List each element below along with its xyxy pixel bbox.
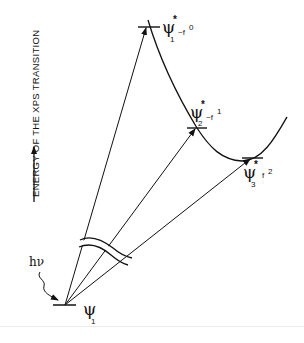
initial-psi: ψ bbox=[83, 299, 96, 319]
initial-psi-subscript: 1 bbox=[91, 317, 96, 326]
transition-arrow-3 bbox=[65, 159, 250, 305]
final-2-power: 1 bbox=[217, 107, 222, 116]
photon-label: hν bbox=[29, 255, 58, 300]
scale-break-mark bbox=[78, 238, 134, 265]
initial-state-label: ψ 1 bbox=[83, 299, 96, 326]
energy-axis: ENERGY OF THE XPS TRANSITION bbox=[30, 30, 41, 202]
final-2-star: * bbox=[201, 99, 205, 110]
transition-arrow-2 bbox=[65, 129, 195, 305]
xps-energy-diagram: ENERGY OF THE XPS TRANSITION hν ψ 1 ψ * … bbox=[0, 0, 304, 343]
final-3-occupation: f bbox=[262, 171, 265, 180]
final-3-star: * bbox=[254, 159, 258, 170]
page-edge-line bbox=[0, 326, 304, 327]
final-state-1-label: ψ * 1 ~f 0 bbox=[162, 14, 194, 44]
final-1-subscript: 1 bbox=[170, 35, 175, 44]
photon-wavy-arrow-icon bbox=[39, 272, 58, 300]
svg-text:hν: hν bbox=[29, 255, 44, 269]
final-1-power: 0 bbox=[189, 23, 194, 32]
transition-arrow-1 bbox=[65, 28, 146, 305]
photon-nu: ν bbox=[37, 255, 44, 269]
final-state-3-label: ψ * 3 f 2 bbox=[243, 159, 273, 189]
final-2-subscript: 2 bbox=[198, 119, 203, 128]
final-1-star: * bbox=[173, 14, 177, 25]
final-2-occupation: ~f bbox=[206, 113, 214, 122]
final-3-subscript: 3 bbox=[251, 180, 256, 189]
energy-axis-label: ENERGY OF THE XPS TRANSITION bbox=[30, 30, 41, 197]
final-3-power: 2 bbox=[268, 167, 273, 176]
final-1-occupation: ~f bbox=[178, 28, 186, 37]
final-state-energy-curve bbox=[148, 20, 287, 161]
